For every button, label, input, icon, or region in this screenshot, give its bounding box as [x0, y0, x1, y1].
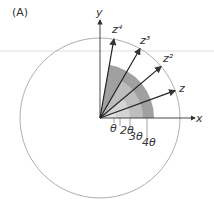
angle-label-theta: θ: [110, 122, 117, 135]
vector-z-label: z: [178, 82, 185, 95]
angle-label-4theta: 4θ: [142, 136, 156, 149]
vector-z4-label: z⁴: [111, 23, 123, 36]
x-axis-label: x: [195, 112, 203, 125]
vector-z3-label: z³: [139, 34, 151, 47]
y-axis-label: y: [95, 6, 103, 19]
vector-z2-label: z²: [162, 52, 174, 65]
unit-circle-diagram: x y z z² z³ z⁴ θ 2θ 3θ 4θ: [0, 0, 214, 206]
angle-label-3theta: 3θ: [129, 130, 143, 143]
